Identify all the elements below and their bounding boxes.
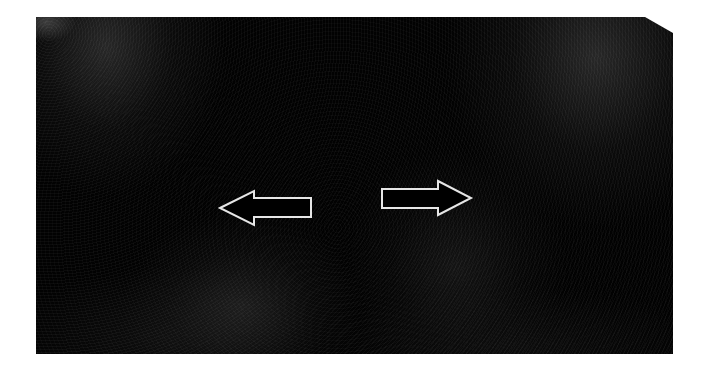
figure-canvas — [0, 0, 708, 368]
right-arrow-icon — [0, 0, 708, 368]
